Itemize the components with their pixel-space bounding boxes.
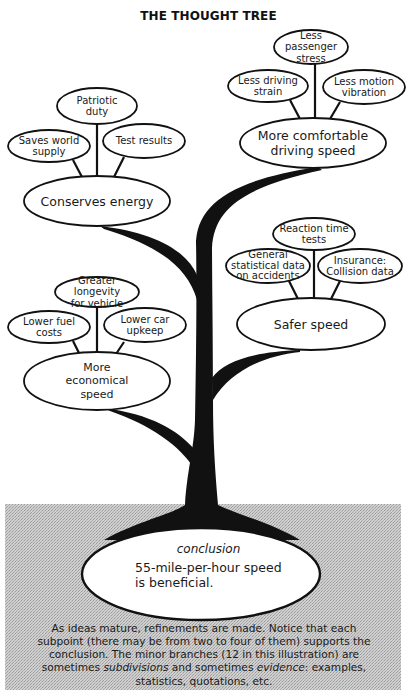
- subpoint-lower-fuel-costs: Lower fuel costs: [8, 311, 90, 343]
- subpoint-greater-longevity: Greater longevity for vehicle: [55, 277, 139, 307]
- caption-fragment: : examples,: [305, 661, 366, 673]
- subpoint-saves-world-supply: Saves world supply: [8, 130, 90, 162]
- branch-economical: [104, 408, 195, 470]
- subpoint-general-statistical-data: General statistical data on accidents: [226, 249, 310, 283]
- caption: As ideas mature, refinements are made. N…: [14, 622, 394, 688]
- caption-emphasis: evidence: [257, 661, 305, 673]
- subpoint-less-motion-vibration: Less motion vibration: [323, 70, 405, 104]
- subpoint-less-passenger-stress: Less passenger stress: [274, 30, 348, 64]
- branch-conserves-energy: Conserves energy: [24, 176, 170, 226]
- caption-line: As ideas mature, refinements are made. N…: [14, 622, 394, 635]
- subpoint-patriotic-duty: Patriotic duty: [57, 88, 137, 124]
- caption-line: subpoint (there may be from two to four …: [14, 635, 394, 648]
- branch-economical-speed: More economical speed: [24, 352, 170, 410]
- subpoint-lower-car-upkeep: Lower car upkeep: [104, 308, 186, 342]
- subpoint-insurance-collision-data: Insurance: Collision data: [318, 249, 402, 283]
- conclusion-text: 55-mile-per-hour speed is beneficial.: [135, 560, 295, 590]
- subpoint-less-driving-strain: Less driving strain: [228, 70, 308, 102]
- caption-fragment: sometimes: [42, 661, 104, 673]
- caption-emphasis: subdivisions: [103, 661, 168, 673]
- subpoint-test-results: Test results: [103, 124, 185, 158]
- caption-line: sometimes subdivisions and sometimes evi…: [14, 661, 394, 674]
- conclusion-label: conclusion: [0, 542, 417, 556]
- caption-line: conclusion. The minor branches (12 in th…: [14, 648, 394, 661]
- branch-comfortable-speed: More comfortable driving speed: [240, 118, 386, 168]
- subpoint-reaction-time-tests: Reaction time tests: [273, 218, 355, 250]
- branch-safer: [212, 350, 300, 400]
- caption-fragment: and sometimes: [168, 661, 256, 673]
- caption-line: statistics, quotations, etc.: [14, 675, 394, 688]
- branch-safer-speed: Safer speed: [237, 298, 385, 350]
